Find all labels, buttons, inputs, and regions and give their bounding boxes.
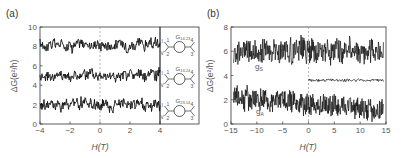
panel-a-xtick-label: 4 bbox=[158, 126, 163, 135]
panel-a-ytick-label: 0 bbox=[33, 120, 38, 129]
voltage-marker: V bbox=[161, 50, 165, 56]
inset-label: G13,24 bbox=[176, 66, 191, 73]
panel-a-ytick-label: 8 bbox=[33, 42, 38, 51]
contact-label: 1 bbox=[167, 101, 170, 107]
panel-b-plot: −15−10−505101502468 gSgA bbox=[224, 23, 391, 135]
ring-icon bbox=[174, 74, 185, 85]
contact-label: 3 bbox=[191, 83, 194, 89]
contact-label: 2 bbox=[167, 83, 170, 89]
series-label-gS: gS bbox=[255, 62, 263, 72]
inset-label: G23,14 bbox=[176, 98, 191, 105]
inset-diagram-3: G23,141234VI bbox=[161, 98, 195, 121]
contact-label: 4 bbox=[191, 37, 194, 43]
panel-b-label: (b) bbox=[207, 8, 219, 19]
contact-label: 4 bbox=[191, 101, 194, 107]
panel-a-ytick-label: 2 bbox=[33, 101, 38, 110]
current-marker: I bbox=[162, 102, 163, 108]
series-label-gA: gA bbox=[256, 107, 264, 117]
figure: (a) −4−20240246810 G14,231234VIG13,24123… bbox=[0, 0, 404, 158]
panel-a-ytick-label: 6 bbox=[33, 62, 38, 71]
voltage-marker: V bbox=[161, 82, 165, 88]
panel-a-series-3 bbox=[40, 97, 160, 114]
panel-b-ytick-label: 6 bbox=[224, 47, 229, 56]
panel-b-ytick-label: 0 bbox=[224, 120, 229, 129]
ring-icon bbox=[174, 106, 185, 117]
contact-label: 1 bbox=[167, 37, 170, 43]
inset-label: G14,23 bbox=[176, 34, 191, 41]
panel-b-series-antisymmetric residual bbox=[309, 79, 384, 82]
panel-b-ytick-label: 4 bbox=[224, 72, 229, 81]
panel-a-xlabel: H(T) bbox=[92, 142, 109, 152]
panel-a-xtick-label: 0 bbox=[98, 126, 103, 135]
panel-b-xtick-label: 15 bbox=[382, 126, 391, 135]
panel-a-xtick-label: −2 bbox=[65, 126, 75, 135]
panel-a-xtick-label: 2 bbox=[128, 126, 133, 135]
panel-b-ytick-label: 8 bbox=[224, 23, 229, 32]
panel-b-ylabel: ΔG(e²/h) bbox=[205, 60, 215, 93]
panel-a-ytick-label: 4 bbox=[33, 81, 38, 90]
panel-b-xtick-label: −5 bbox=[278, 126, 288, 135]
contact-label: 3 bbox=[191, 51, 194, 57]
panel-b-ytick-label: 2 bbox=[224, 96, 229, 105]
voltage-marker: V bbox=[161, 114, 165, 120]
contact-label: 2 bbox=[167, 115, 170, 121]
panel-b-xtick-label: 10 bbox=[356, 126, 365, 135]
panel-b-xlabel: H(T) bbox=[300, 142, 317, 152]
current-marker: I bbox=[162, 38, 163, 44]
panel-b-xtick-label: −10 bbox=[250, 126, 264, 135]
panel-b-xtick-label: 0 bbox=[306, 126, 311, 135]
panel-b-xtick-label: 5 bbox=[332, 126, 337, 135]
contact-label: 1 bbox=[167, 69, 170, 75]
ring-icon bbox=[174, 42, 185, 53]
inset-diagram-1: G14,231234VI bbox=[161, 34, 195, 57]
contact-label: 4 bbox=[191, 69, 194, 75]
contact-label: 3 bbox=[191, 115, 194, 121]
inset-diagram-2: G13,241234VI bbox=[161, 66, 195, 89]
contact-label: 2 bbox=[167, 51, 170, 57]
current-marker: I bbox=[162, 70, 163, 76]
panel-a-plot: −4−20240246810 G14,231234VIG13,241234VIG… bbox=[28, 23, 199, 135]
panel-a-ytick-label: 10 bbox=[28, 23, 37, 32]
panel-a-ylabel: ΔG(e²/h) bbox=[9, 60, 19, 93]
panel-a-label: (a) bbox=[6, 8, 18, 19]
